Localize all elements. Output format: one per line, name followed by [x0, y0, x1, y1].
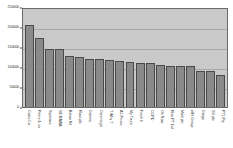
- x-axis-tick: eIHi Group: [186, 109, 196, 148]
- x-axis-tick-label: SG plc: [210, 110, 214, 121]
- x-axis-tick-label: SE RAWA: [57, 110, 61, 126]
- x-axis: Costs CoPrime & coSysmaxxSE RAWABelow Nt…: [22, 109, 228, 148]
- x-axis-tick: Rise PT Ltd: [166, 109, 176, 148]
- bar: [136, 63, 145, 107]
- x-axis-tick-label: PT1 Pty: [220, 110, 224, 123]
- x-axis-tick-label: CCPD: [149, 110, 153, 120]
- bar: [45, 49, 54, 107]
- x-axis-tick: Prime & co: [33, 109, 43, 148]
- x-axis-tick: Cars to go: [94, 109, 104, 148]
- bar: [176, 66, 185, 107]
- bar: [65, 56, 74, 107]
- x-axis-tick: My Tours: [125, 109, 135, 148]
- x-axis-tick-label: T Why T: [108, 110, 112, 123]
- x-axis-tick: SE RAWA: [54, 109, 64, 148]
- bar: [105, 60, 114, 107]
- y-axis-tick-label: 150000: [8, 46, 19, 50]
- y-axis-tick-label: 100000: [8, 66, 19, 70]
- x-axis-tick-label: Costs Co: [26, 110, 30, 125]
- bar: [35, 38, 44, 107]
- x-axis-tick: Sysmaxx: [43, 109, 53, 148]
- x-axis-tick: T Why T: [105, 109, 115, 148]
- x-axis-tick-label: Rise PT Ltd: [169, 110, 173, 129]
- x-axis-tick-label: Grenns: [87, 110, 91, 122]
- x-axis-tick: Below Ntl: [64, 109, 74, 148]
- x-axis-tick-label: My Tours: [128, 110, 132, 125]
- bar: [115, 61, 124, 107]
- x-axis-tick: Costs Co: [23, 109, 33, 148]
- y-axis-tick-label: 200000: [8, 26, 19, 30]
- x-axis-tick: SG plc: [207, 109, 217, 148]
- x-axis-tick-label: Cars to go: [98, 110, 102, 127]
- x-axis-tick: On Now: [156, 109, 166, 148]
- bar: [186, 66, 195, 107]
- x-axis-tick-label: Sysmaxx: [47, 110, 51, 125]
- bar-series: [23, 9, 227, 107]
- x-axis-tick: A1 Prices: [115, 109, 125, 148]
- bar: [156, 65, 165, 107]
- bar: [55, 49, 64, 107]
- x-axis-tick-label: Mark plc: [179, 110, 183, 124]
- x-axis-tick: CCPD: [145, 109, 155, 148]
- plot-area: [22, 8, 228, 108]
- x-axis-tick-label: A1 Prices: [118, 110, 122, 125]
- x-axis-tick-label: Ross plc: [77, 110, 81, 124]
- x-axis-tick-label: Finch It: [138, 110, 142, 122]
- bar: [216, 75, 225, 107]
- bar: [146, 63, 155, 107]
- x-axis-tick-label: On Now: [159, 110, 163, 123]
- y-axis-tick-label: 50000: [10, 86, 20, 90]
- bar: [25, 25, 34, 107]
- x-axis-tick-label: Gregs: [200, 110, 204, 120]
- bar: [95, 59, 104, 107]
- y-axis-tick-label: 0: [17, 106, 19, 110]
- bar: [75, 57, 84, 107]
- x-axis-tick-label: eIHi Group: [189, 110, 193, 127]
- x-axis-tick-label: Below Ntl: [67, 110, 71, 125]
- x-axis-tick: Finch It: [135, 109, 145, 148]
- x-axis-tick: PT1 Pty: [217, 109, 227, 148]
- y-axis: 050000100000150000200000250000: [0, 8, 22, 108]
- bar: [166, 66, 175, 107]
- y-axis-tick-label: 250000: [8, 6, 19, 10]
- bar: [206, 71, 215, 107]
- x-axis-tick: Grenns: [84, 109, 94, 148]
- x-axis-tick: Gregs: [196, 109, 206, 148]
- bar-chart: 050000100000150000200000250000 Costs CoP…: [0, 0, 233, 148]
- x-axis-tick-label: Prime & co: [36, 110, 40, 128]
- bar: [196, 71, 205, 107]
- bar: [126, 62, 135, 107]
- x-axis-tick: Mark plc: [176, 109, 186, 148]
- x-axis-tick: Ross plc: [74, 109, 84, 148]
- bar: [85, 59, 94, 107]
